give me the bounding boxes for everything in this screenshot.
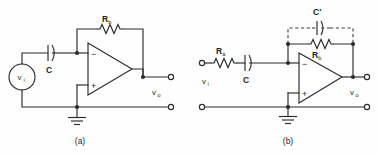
resistor-rb-a-symbol: [97, 25, 123, 34]
input-vi-b-label-sub: i: [208, 81, 209, 87]
output-vo-a-label-sub: o: [158, 92, 161, 98]
voltage-source-label-sub: i: [24, 77, 25, 83]
node-output-b: [351, 75, 355, 79]
resistor-rb-b-label-sub: b: [318, 55, 321, 61]
panel-b: v i R a C R b: [199, 7, 369, 146]
caption-panel-b: (b): [283, 136, 294, 146]
output-vo-a-label: v: [152, 88, 156, 97]
resistor-ra-b-symbol: [211, 59, 237, 68]
figure-root: v i C R b − +: [0, 0, 378, 155]
voltage-source-vi-symbol: [9, 64, 35, 90]
capacitor-cprime-label: C′: [313, 7, 321, 17]
capacitor-c-b-label: C: [243, 75, 249, 85]
op-amp-a-inverting-sign: −: [91, 49, 96, 59]
voltage-source-label: v: [18, 73, 22, 82]
terminal-input-b-top: [199, 60, 204, 65]
wire-source-to-ground-rail: [22, 90, 77, 107]
output-vo-b-label: v: [350, 88, 354, 97]
terminal-output-a-bottom: [168, 104, 173, 109]
wire-cprime-dashed-right: [330, 28, 353, 44]
wire-cprime-dashed-left: [288, 28, 312, 44]
input-vi-b-label: v: [202, 77, 206, 86]
terminal-input-b-bottom: [199, 104, 204, 109]
terminal-output-b-bottom: [364, 104, 369, 109]
wire-op-amp-a-output: [132, 69, 168, 77]
terminal-output-b-top: [364, 74, 369, 79]
resistor-rb-a-label-sub: b: [108, 19, 111, 25]
op-amp-a-noninverting-sign: +: [91, 81, 96, 91]
circuit-diagram-svg: v i C R b − +: [0, 0, 378, 155]
caption-panel-a: (a): [75, 136, 86, 146]
wire-feedback-rb-down-b: [334, 44, 353, 75]
panel-a: v i C R b − +: [9, 14, 174, 146]
node-output-a: [141, 75, 145, 79]
op-amp-b-noninverting-sign: +: [302, 89, 307, 99]
capacitor-c-label: C: [46, 65, 52, 75]
wire-source-to-cap: [22, 53, 48, 64]
terminal-output-a-top: [168, 74, 173, 79]
output-vo-b-label-sub: o: [356, 92, 359, 98]
resistor-rb-b-symbol: [308, 40, 334, 49]
op-amp-b-inverting-sign: −: [302, 59, 307, 69]
resistor-ra-b-label-sub: a: [222, 51, 226, 57]
